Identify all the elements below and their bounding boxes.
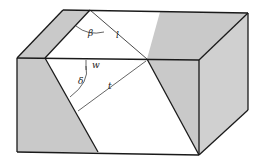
shaded-regions [17,10,248,155]
front-bottom-edge [17,152,199,155]
l-label: l [116,30,119,40]
t-dimension-line [78,61,146,111]
delta-label: δ [78,76,83,86]
left-top-shaded-strip [17,10,90,58]
dimension-annotations [70,26,146,111]
block-diagram: β l w δ t [0,0,259,165]
w-label: w [92,60,100,70]
t-label: t [108,81,112,91]
beta-label: β [87,28,93,38]
